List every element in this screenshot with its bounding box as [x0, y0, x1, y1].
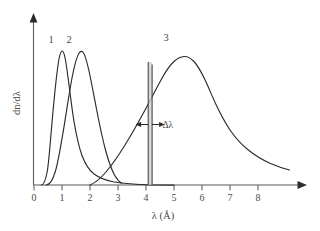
x-tick-label-3: 3	[116, 192, 121, 203]
x-tick-label-1: 1	[60, 192, 65, 203]
x-tick-label-2: 2	[88, 192, 93, 203]
curve-3-label: 3	[163, 32, 168, 43]
x-tick-group: 0 1 2 3 4 5 6 7 8	[32, 185, 261, 203]
curve-group	[41, 51, 289, 185]
y-axis-title: dn/dλ	[11, 90, 22, 115]
curve-1-label: 1	[48, 34, 53, 45]
x-tick-label-7: 7	[228, 192, 233, 203]
x-axis-title: λ (Å)	[152, 210, 175, 222]
x-tick-label-8: 8	[256, 192, 261, 203]
spectral-distribution-chart: 0 1 2 3 4 5 6 7 8 λ (Å) dn/dλ Δλ	[0, 0, 320, 231]
y-axis-arrowhead	[30, 13, 38, 23]
curve-2-label: 2	[66, 34, 71, 45]
x-tick-label-4: 4	[144, 192, 149, 203]
figure-container: 0 1 2 3 4 5 6 7 8 λ (Å) dn/dλ Δλ	[0, 0, 320, 231]
x-tick-label-5: 5	[172, 192, 177, 203]
delta-lambda-label: Δλ	[163, 120, 174, 130]
x-tick-label-0: 0	[32, 192, 37, 203]
x-axis-arrowhead	[298, 181, 308, 189]
curve-1	[41, 51, 174, 185]
x-tick-label-6: 6	[200, 192, 205, 203]
monochromator-slit-annotation: Δλ	[141, 62, 174, 185]
curve-3	[90, 56, 290, 185]
